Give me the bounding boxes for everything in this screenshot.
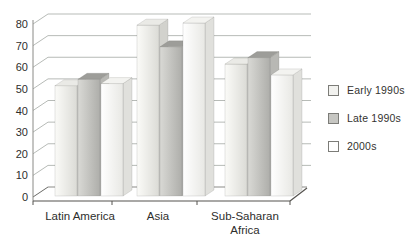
legend-label-2000s: 2000s bbox=[347, 140, 377, 152]
legend-label-late-1990s: Late 1990s bbox=[347, 112, 401, 124]
x-category-label-1: Asia bbox=[147, 210, 170, 222]
bar-late-1990s-sub-saharan-africa bbox=[248, 58, 270, 196]
bar-early-1990s-asia bbox=[137, 25, 159, 196]
bar-late-1990s-asia bbox=[160, 47, 182, 196]
y-tick-label-50: 50 bbox=[16, 83, 28, 95]
x-category-label-0: Latin America bbox=[45, 210, 115, 222]
y-tick-label-30: 30 bbox=[16, 126, 28, 138]
bar-side-2000s-sub-saharan-africa bbox=[293, 69, 302, 196]
legend-swatch-late-1990s bbox=[328, 113, 339, 124]
bar-2000s-latin-america bbox=[101, 84, 123, 196]
bar-2000s-asia bbox=[183, 23, 205, 196]
legend-item-late-1990s: Late 1990s bbox=[328, 112, 405, 124]
zero-gridline bbox=[33, 187, 48, 197]
y-tick-label-80: 80 bbox=[16, 18, 28, 30]
y-tick-label-10: 10 bbox=[16, 169, 28, 181]
y-tick-label-20: 20 bbox=[16, 148, 28, 160]
bar-2000s-sub-saharan-africa bbox=[271, 75, 293, 196]
bar-early-1990s-latin-america bbox=[55, 86, 77, 196]
x-category-label-2: Sub-Saharan bbox=[211, 210, 279, 222]
legend-item-2000s: 2000s bbox=[328, 140, 405, 152]
legend-swatch-early-1990s bbox=[328, 85, 339, 96]
bar-side-2000s-asia bbox=[205, 17, 214, 196]
bar-late-1990s-latin-america bbox=[78, 79, 100, 196]
chart-legend: Early 1990s Late 1990s 2000s bbox=[328, 84, 405, 168]
y-tick-label-60: 60 bbox=[16, 61, 28, 73]
legend-swatch-2000s bbox=[328, 141, 339, 152]
legend-label-early-1990s: Early 1990s bbox=[347, 84, 405, 96]
legend-item-early-1990s: Early 1990s bbox=[328, 84, 405, 96]
y-tick-label-0: 0 bbox=[22, 191, 28, 203]
bar-early-1990s-sub-saharan-africa bbox=[225, 64, 247, 196]
chart-page: 01020304050607080Latin AmericaAsiaSub-Sa… bbox=[0, 0, 407, 245]
bar-side-2000s-latin-america bbox=[123, 78, 132, 196]
y-tick-label-70: 70 bbox=[16, 40, 28, 52]
y-tick-label-40: 40 bbox=[16, 105, 28, 117]
gridline-80 bbox=[33, 14, 311, 24]
x-category-label-2-line2: Africa bbox=[230, 224, 260, 236]
